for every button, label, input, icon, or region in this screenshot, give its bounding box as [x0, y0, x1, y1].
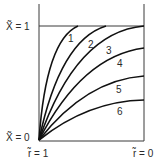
curve-label-6: 6	[117, 106, 123, 117]
r-right-label: r̃ = 0	[132, 147, 154, 159]
curve-label-5: 5	[116, 84, 122, 95]
conversion-profile-diagram: 1 2 3 4 5 6 X̃ = 1 X̃ = 0 r̃ = 1 r̃ = 0	[0, 0, 161, 162]
x-top-label: X̃ = 1	[6, 20, 30, 32]
x-bottom-label: X̃ = 0	[6, 131, 30, 143]
curve-label-3: 3	[106, 45, 112, 56]
curve-label-2: 2	[88, 39, 94, 50]
curve-6	[39, 100, 144, 140]
curve-4	[39, 48, 144, 140]
r-left-label: r̃ = 1	[27, 147, 49, 159]
curve-label-1: 1	[68, 33, 74, 44]
curve-label-4: 4	[117, 58, 123, 69]
